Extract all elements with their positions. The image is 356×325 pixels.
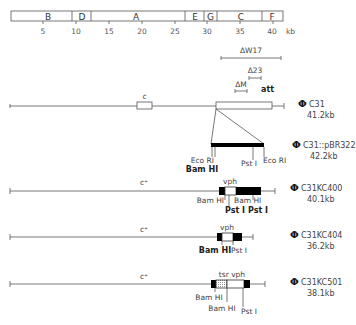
- psti-label: Pst I: [241, 307, 257, 316]
- tick-30: 30: [202, 27, 212, 36]
- tick-10: 10: [71, 27, 81, 36]
- phage-map-diagram: B D A E G C F 5 10 15 20 25 30 35 40 kb …: [0, 0, 356, 325]
- pbr322-insert: [211, 143, 264, 147]
- tick-20: 20: [137, 27, 147, 36]
- kb-scale: 5 10 15 20 25 30 35 40 kb: [41, 21, 296, 36]
- att-region-box: [216, 102, 272, 109]
- phi-symbol: Φ: [292, 139, 301, 150]
- bamhi-1-label: Bam HI: [197, 196, 224, 205]
- expansion-line-left: [211, 109, 216, 144]
- phage-size: 36.2kb: [307, 242, 335, 251]
- vph-gene-box: [227, 280, 244, 288]
- bamhi-2-label: Bam HI: [208, 304, 235, 313]
- ecori-right-label: Eco RI: [263, 156, 286, 165]
- map-kc501: c⁺ tsr vph Bam HI Bam HI Pst I Φ C31KC50…: [10, 270, 342, 316]
- psti-label: Pst I: [241, 159, 257, 168]
- tsr-gene-box: [216, 280, 227, 288]
- tick-40: 40: [267, 27, 277, 36]
- psti-label: Pst I: [231, 246, 247, 255]
- phage-name: C31KC501: [301, 278, 342, 287]
- psti-2-label: Pst I: [248, 206, 268, 215]
- map-c31: c Φ C31 41.2kb: [10, 92, 335, 120]
- bamhi-label: Bam HI: [199, 246, 231, 255]
- vph-gene-box: [225, 187, 236, 195]
- map-c31-pbr322: Eco RI Bam HI Pst I Eco RI Φ C31::pBR322…: [186, 139, 356, 174]
- segment-map: B D A E G C F: [11, 11, 283, 22]
- phage-size: 40.1kb: [307, 195, 335, 204]
- deletion-w17-label: ΔW17: [240, 46, 262, 55]
- phi-symbol: Φ: [290, 276, 299, 287]
- phi-symbol: Φ: [290, 229, 299, 240]
- segment-a: A: [133, 12, 140, 22]
- deletion-markers: ΔW17 Δ23 ΔM att: [221, 46, 281, 94]
- tick-15: 15: [104, 27, 114, 36]
- phage-name: C31KC400: [301, 184, 342, 193]
- phi-symbol: Φ: [290, 182, 299, 193]
- c-gene-label: c: [142, 92, 146, 101]
- c-plus-label: c⁺: [140, 225, 148, 234]
- map-kc400: c⁺ vph Bam HI Bam HI Pst I Pst I Φ C31KC…: [10, 177, 342, 215]
- tick-25: 25: [170, 27, 180, 36]
- expansion-line-right: [216, 109, 264, 144]
- bamhi-2-label: Bam HI: [234, 196, 261, 205]
- phage-size: 38.1kb: [307, 289, 335, 298]
- phi-symbol: Φ: [298, 98, 307, 109]
- phage-name: C31KC404: [301, 231, 342, 240]
- c-plus-label: c⁺: [140, 178, 148, 187]
- vph-label: vph: [220, 223, 234, 232]
- c-plus-label: c⁺: [140, 272, 148, 281]
- bamhi-label: Bam HI: [186, 165, 218, 174]
- segment-g: G: [207, 12, 214, 22]
- vph-gene-box: [222, 233, 233, 241]
- psti-1-label: Pst I: [225, 206, 245, 215]
- tick-35: 35: [235, 27, 245, 36]
- phage-name: C31::pBR322: [303, 141, 356, 150]
- kb-unit-label: kb: [286, 27, 295, 36]
- phage-size: 42.2kb: [310, 152, 338, 161]
- segment-d: D: [79, 12, 86, 22]
- segment-c: C: [238, 12, 244, 22]
- ecori-left-label: Eco RI: [191, 156, 214, 165]
- vph-label: vph: [223, 177, 237, 186]
- bamhi-1-label: Bam HI: [195, 293, 222, 302]
- segment-f: F: [269, 12, 274, 22]
- att-label: att: [261, 85, 274, 94]
- phage-size: 41.2kb: [307, 111, 335, 120]
- deletion-23-label: Δ23: [248, 66, 263, 75]
- tsr-vph-label: tsr vph: [219, 270, 246, 279]
- segment-b: B: [45, 12, 51, 22]
- phage-name: C31: [309, 100, 325, 109]
- deletion-m-label: ΔM: [235, 80, 247, 89]
- c-gene-box: [137, 102, 152, 109]
- tick-5: 5: [41, 27, 46, 36]
- map-kc404: c⁺ vph Bam HI Pst I Φ C31KC404 36.2kb: [10, 223, 342, 255]
- segment-e: E: [192, 12, 198, 22]
